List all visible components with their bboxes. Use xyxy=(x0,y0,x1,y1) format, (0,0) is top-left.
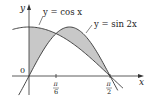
plot-canvas: y x 0 y = cos x y = sin 2x π 6 π 2 xyxy=(0,0,151,103)
sin2x-label: y = sin 2x xyxy=(93,19,137,29)
y-axis-arrow-icon xyxy=(27,4,31,10)
cos-label-text: y = cos x xyxy=(42,7,82,17)
tick-label-pi-6-den: 6 xyxy=(54,88,58,96)
tick-label-pi-6-num: π xyxy=(53,80,59,88)
x-axis-label: x xyxy=(139,77,144,87)
leader-sin xyxy=(86,25,92,33)
y-axis-label: y xyxy=(19,3,26,13)
cos-label: y = cos x xyxy=(42,7,82,17)
origin-label: 0 xyxy=(20,66,25,75)
tick-label-pi-2-den: 2 xyxy=(107,88,111,96)
leader-cos xyxy=(39,16,43,25)
sin2x-label-text: y = sin 2x xyxy=(93,19,137,29)
tick-label-pi-2-num: π xyxy=(106,80,112,88)
